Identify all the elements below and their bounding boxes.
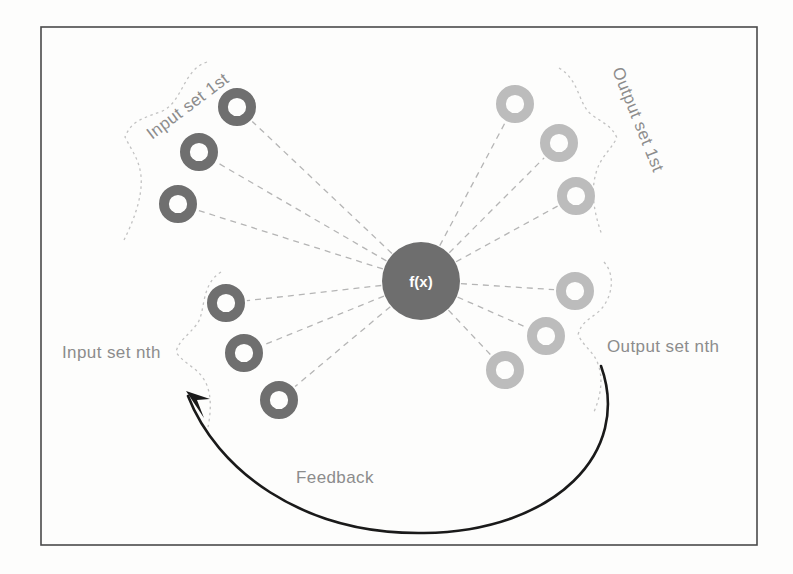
label-output-set-1st: Output set 1st bbox=[608, 64, 667, 174]
connector-line-6 bbox=[440, 123, 505, 246]
feedback-loop bbox=[186, 366, 608, 533]
input-set-nth-node-2[interactable] bbox=[230, 339, 258, 367]
output-set-nth-node-1[interactable] bbox=[561, 277, 589, 305]
set-nodes bbox=[164, 90, 590, 414]
diagram-canvas: f(x) Input set 1stInput set nthOutput se… bbox=[0, 0, 793, 574]
connector-line-7 bbox=[449, 158, 544, 253]
group-output-set-1st bbox=[501, 90, 590, 210]
group-output-set-nth bbox=[491, 277, 589, 384]
connector-line-11 bbox=[448, 310, 490, 355]
group-input-set-nth bbox=[212, 289, 293, 414]
input-set-1st-node-3[interactable] bbox=[164, 190, 192, 218]
connector-line-5 bbox=[295, 307, 390, 387]
output-set-1st-node-3[interactable] bbox=[562, 182, 590, 210]
center-node-group[interactable]: f(x) bbox=[382, 242, 460, 320]
connector-line-9 bbox=[461, 284, 554, 290]
feedback-arc bbox=[188, 366, 608, 533]
connector-line-4 bbox=[263, 296, 383, 345]
function-node-label: f(x) bbox=[409, 273, 432, 290]
connector-line-1 bbox=[217, 163, 386, 261]
label-input-set-nth: Input set nth bbox=[62, 343, 161, 362]
output-set-1st-node-2[interactable] bbox=[545, 129, 573, 157]
function-mapping-diagram: f(x) Input set 1stInput set nthOutput se… bbox=[0, 0, 793, 574]
connector-line-3 bbox=[247, 285, 381, 300]
group-labels: Input set 1stInput set nthOutput set 1st… bbox=[62, 64, 719, 362]
output-set-nth-node-3[interactable] bbox=[491, 356, 519, 384]
label-output-set-nth: Output set nth bbox=[607, 337, 719, 356]
input-set-1st-node-1[interactable] bbox=[223, 93, 251, 121]
connector-line-2 bbox=[198, 210, 383, 269]
output-set-nth-node-2[interactable] bbox=[532, 322, 560, 350]
input-set-nth-node-3[interactable] bbox=[265, 386, 293, 414]
output-set-1st-node-1[interactable] bbox=[501, 90, 529, 118]
group-braces bbox=[124, 62, 617, 432]
connector-line-8 bbox=[456, 206, 558, 262]
feedback-arrowhead bbox=[186, 391, 210, 418]
input-set-1st-node-2[interactable] bbox=[185, 138, 213, 166]
feedback-label: Feedback bbox=[296, 468, 374, 487]
connector-line-10 bbox=[458, 297, 527, 327]
input-set-nth-node-1[interactable] bbox=[212, 289, 240, 317]
